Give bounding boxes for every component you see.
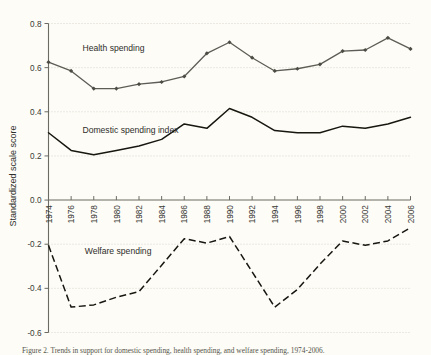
figure-caption: Figure 2. Trends in support for domestic… [22,346,422,355]
x-tick-label: 1982 [135,205,144,224]
x-tick-label: 1988 [203,205,212,224]
y-tick-label: -0.2 [27,240,42,249]
series-label-2: Welfare spending [85,246,152,256]
x-tick-label: 1978 [90,205,99,224]
x-tick-label: 1980 [113,205,122,224]
x-tick-label: 1992 [248,205,257,224]
x-tick-label: 2002 [361,205,370,224]
x-tick-label: 1998 [316,205,325,224]
x-tick-label: 1986 [180,205,189,224]
y-axis-title: Standardized scale score [8,125,18,226]
y-tick-label: 0.8 [30,20,42,29]
x-tick-label: 1974 [45,205,54,224]
y-tick-label: 0.0 [30,196,42,205]
x-tick-label: 1996 [294,205,303,224]
y-tick-label: 0.4 [30,108,42,117]
x-tick-label: 1984 [158,205,167,224]
x-tick-label: 2004 [384,205,393,224]
x-tick-label: 1994 [271,205,280,224]
series-label-0: Health spending [82,43,144,53]
y-tick-label: -0.4 [27,284,42,293]
x-tick-label: 1976 [67,205,76,224]
x-tick-label: 2006 [407,205,416,224]
y-tick-label: -0.6 [27,329,42,338]
x-tick-label: 2000 [339,205,348,224]
series-label-1: Domestic spending index [82,125,179,135]
x-tick-label: 1990 [226,205,235,224]
y-tick-label: 0.6 [30,64,42,73]
y-tick-label: 0.2 [30,152,42,161]
